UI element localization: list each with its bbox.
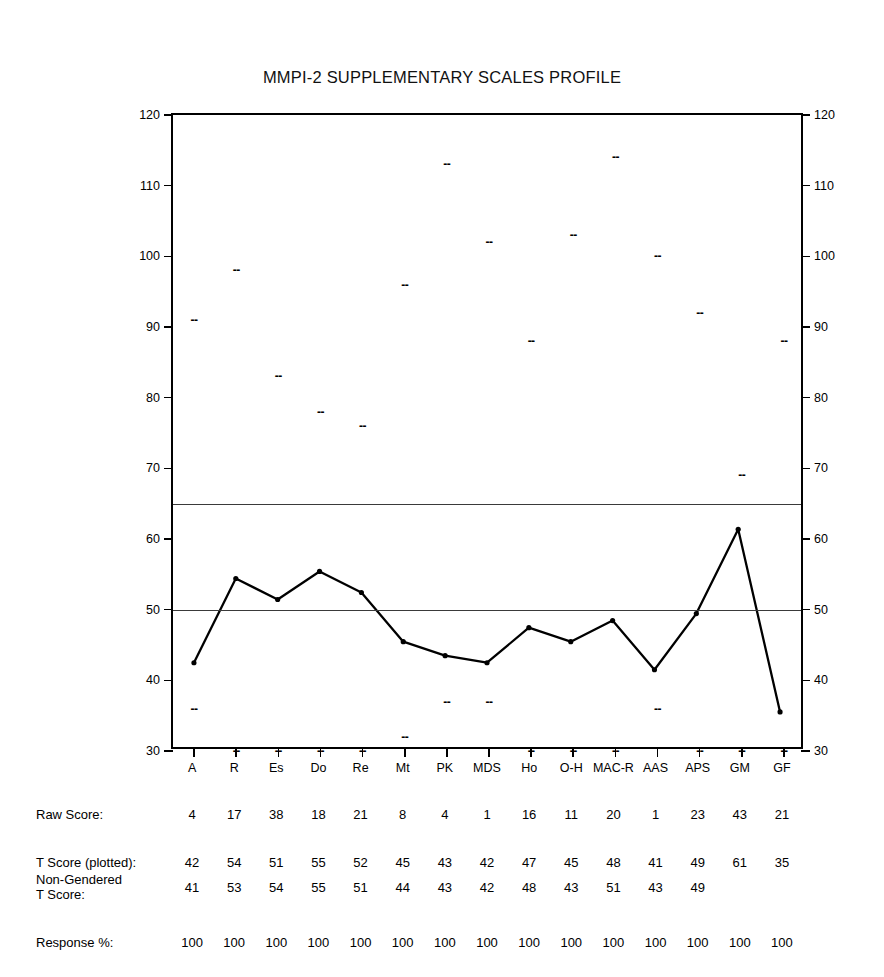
table-cell: 43 <box>648 880 662 895</box>
percentile-dash-marker: -- <box>780 335 787 347</box>
percentile-dash-marker: -- <box>696 307 703 319</box>
table-cell: 43 <box>438 855 452 870</box>
percentile-dash-marker: -- <box>443 158 450 170</box>
y-axis-tick-left <box>164 185 173 187</box>
percentile-dash-marker: -- <box>570 745 577 757</box>
table-cell: 47 <box>522 855 536 870</box>
percentile-dash-marker: -- <box>233 264 240 276</box>
y-axis-label-left: 30 <box>146 745 160 758</box>
table-cell: 100 <box>350 935 372 950</box>
table-cell: 100 <box>476 935 498 950</box>
table-cell: 43 <box>733 807 747 822</box>
table-cell: 100 <box>223 935 245 950</box>
table-cell: 100 <box>560 935 582 950</box>
table-cell: 18 <box>311 807 325 822</box>
table-cell: 100 <box>645 935 667 950</box>
percentile-dash-marker: -- <box>486 696 493 708</box>
percentile-dash-marker: -- <box>780 745 787 757</box>
y-axis-tick-right <box>801 114 810 116</box>
x-axis-tick <box>657 747 659 757</box>
percentile-dash-marker: -- <box>738 745 745 757</box>
y-axis-tick-left <box>164 680 173 682</box>
profile-data-point <box>401 639 406 644</box>
profile-data-point <box>777 709 782 714</box>
table-cell: 43 <box>438 880 452 895</box>
percentile-dash-marker: -- <box>359 745 366 757</box>
y-axis-label-left: 120 <box>139 109 160 122</box>
profile-data-point <box>191 660 196 665</box>
percentile-dash-marker: -- <box>654 250 661 262</box>
table-row-label: Non-Gendered T Score: <box>36 872 122 902</box>
table-cell: 11 <box>565 807 579 822</box>
profile-line-chart <box>173 115 801 747</box>
y-axis-label-right: 50 <box>814 604 828 617</box>
y-axis-tick-left <box>164 609 173 611</box>
y-axis-tick-right <box>801 397 810 399</box>
scale-label-o-h: O-H <box>560 761 583 775</box>
profile-data-point <box>736 527 741 532</box>
table-cell: 49 <box>690 880 704 895</box>
table-cell: 100 <box>392 935 414 950</box>
percentile-dash-marker: -- <box>570 229 577 241</box>
percentile-dash-marker: -- <box>233 745 240 757</box>
table-cell: 51 <box>269 855 283 870</box>
reference-line-65 <box>173 504 801 505</box>
profile-data-point <box>443 653 448 658</box>
scale-label-mds: MDS <box>473 761 501 775</box>
y-axis-tick-right <box>801 326 810 328</box>
percentile-dash-marker: -- <box>191 314 198 326</box>
table-cell: 44 <box>395 880 409 895</box>
table-cell: 51 <box>353 880 367 895</box>
percentile-dash-marker: -- <box>275 745 282 757</box>
table-cell: 48 <box>522 880 536 895</box>
scale-label-aps: APS <box>685 761 710 775</box>
y-axis-tick-right <box>801 468 810 470</box>
profile-line <box>194 529 780 712</box>
scale-label-aas: AAS <box>643 761 668 775</box>
table-cell: 100 <box>308 935 330 950</box>
profile-data-point <box>359 590 364 595</box>
profile-data-point <box>275 597 280 602</box>
reference-line-50 <box>173 610 801 611</box>
table-cell: 54 <box>269 880 283 895</box>
scale-label-a: A <box>188 761 196 775</box>
table-cell: 49 <box>690 855 704 870</box>
table-cell: 21 <box>353 807 367 822</box>
percentile-dash-marker: -- <box>528 335 535 347</box>
y-axis-label-left: 110 <box>140 180 160 193</box>
table-cell: 43 <box>564 880 578 895</box>
y-axis-label-right: 30 <box>814 745 828 758</box>
table-cell: 16 <box>522 807 536 822</box>
profile-data-point <box>568 639 573 644</box>
table-cell: 41 <box>648 855 662 870</box>
profile-data-point <box>526 625 531 630</box>
y-axis-tick-left <box>164 538 173 540</box>
table-cell: 45 <box>564 855 578 870</box>
percentile-dash-marker: -- <box>359 420 366 432</box>
y-axis-label-right: 110 <box>814 180 834 193</box>
percentile-dash-marker: -- <box>654 703 661 715</box>
y-axis-tick-right <box>801 256 810 258</box>
table-cell: 1 <box>483 807 490 822</box>
y-axis-label-right: 80 <box>814 392 828 405</box>
scale-label-pk: PK <box>437 761 454 775</box>
percentile-dash-marker: -- <box>191 703 198 715</box>
scale-label-mt: Mt <box>396 761 410 775</box>
table-cell: 23 <box>690 807 704 822</box>
table-cell: 53 <box>227 880 241 895</box>
percentile-dash-marker: -- <box>612 151 619 163</box>
table-row-label: Response %: <box>36 935 113 950</box>
profile-data-point <box>694 611 699 616</box>
table-cell: 100 <box>603 935 625 950</box>
table-cell: 42 <box>480 880 494 895</box>
x-axis-tick <box>488 747 490 757</box>
table-cell: 100 <box>771 935 793 950</box>
table-cell: 45 <box>395 855 409 870</box>
table-cell: 4 <box>188 807 195 822</box>
y-axis-label-left: 80 <box>146 392 160 405</box>
y-axis-label-left: 90 <box>146 321 160 334</box>
y-axis-tick-left <box>164 256 173 258</box>
y-axis-tick-left <box>164 326 173 328</box>
y-axis-tick-left <box>164 750 173 752</box>
y-axis-label-right: 70 <box>814 462 828 475</box>
